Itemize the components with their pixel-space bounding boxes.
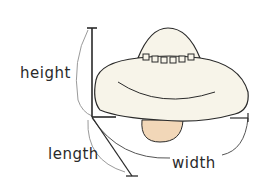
ufo-illustration [0, 0, 270, 194]
ufo-saucer-body [95, 56, 249, 121]
width-label: width [172, 154, 216, 172]
width-guide-arc-right [222, 118, 248, 155]
ufo-bottom-pod [142, 120, 183, 142]
ufo-dimension-diagram: height length width [0, 0, 270, 194]
length-label: length [48, 145, 99, 163]
height-guide-arc [76, 30, 92, 116]
height-label: height [20, 64, 71, 82]
